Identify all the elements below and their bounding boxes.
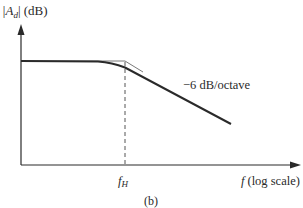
response-curve: [21, 61, 231, 124]
x-axis-label: f(log scale): [241, 174, 300, 188]
y-axis-label: |Ad|(dB): [2, 3, 47, 20]
y-axis-arrow-icon: [18, 24, 25, 35]
x-axis-arrow-icon: [290, 162, 301, 169]
figure-caption: (b): [144, 194, 158, 208]
corner-frequency-label: fH: [118, 174, 128, 189]
bode-magnitude-diagram: |Ad|(dB) −6 dB/octave fH f(log scale) (b…: [0, 0, 303, 208]
slope-label: −6 dB/octave: [183, 78, 251, 92]
